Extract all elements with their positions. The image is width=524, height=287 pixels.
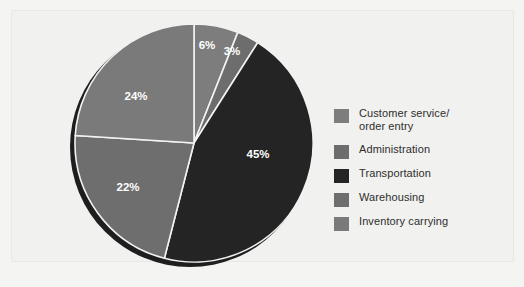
legend-item-administration[interactable]: Administration — [334, 143, 514, 159]
chart-legend: Customer service/ order entryAdministrat… — [334, 107, 514, 239]
legend-label-customer-service-order-entry: Customer service/ order entry — [359, 107, 449, 133]
chart-plot-area: 6%3%45%22%24% Customer service/ order en… — [0, 0, 524, 287]
legend-label-administration: Administration — [359, 143, 430, 156]
pie-svg: 6%3%45%22%24% — [60, 12, 328, 274]
slice-value-label-customer-service-order-entry: 6% — [199, 39, 216, 51]
legend-swatch-warehousing — [334, 193, 349, 207]
legend-swatch-transportation — [334, 169, 349, 183]
slice-value-label-transportation: 45% — [246, 148, 269, 160]
legend-label-inventory-carrying: Inventory carrying — [359, 215, 448, 228]
legend-item-warehousing[interactable]: Warehousing — [334, 191, 514, 207]
slice-value-label-warehousing: 22% — [116, 181, 139, 193]
legend-swatch-inventory-carrying — [334, 217, 349, 231]
pie-chart-figure: 6%3%45%22%24% Customer service/ order en… — [0, 0, 524, 287]
legend-item-customer-service-order-entry[interactable]: Customer service/ order entry — [334, 107, 514, 133]
pie-slices — [75, 24, 313, 262]
slice-value-label-administration: 3% — [224, 45, 241, 57]
legend-label-transportation: Transportation — [359, 167, 431, 180]
legend-swatch-customer-service-order-entry — [334, 109, 349, 123]
slice-value-label-inventory-carrying: 24% — [124, 90, 147, 102]
legend-label-warehousing: Warehousing — [359, 191, 425, 204]
legend-swatch-administration — [334, 145, 349, 159]
pie-slice-inventory-carrying[interactable] — [75, 24, 194, 143]
legend-item-transportation[interactable]: Transportation — [334, 167, 514, 183]
legend-item-inventory-carrying[interactable]: Inventory carrying — [334, 215, 514, 231]
